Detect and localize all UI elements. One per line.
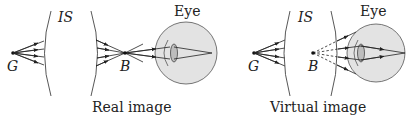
eye-icon — [155, 22, 217, 84]
image-point-b — [123, 51, 127, 55]
image-point-b — [311, 51, 315, 55]
label-b: B — [307, 58, 318, 74]
eye-icon — [347, 24, 405, 82]
label-is: IS — [57, 9, 73, 25]
caption-virtual-image: Virtual image — [269, 99, 366, 115]
label-is: IS — [297, 9, 313, 25]
label-eye: Eye — [174, 3, 200, 19]
label-g: G — [7, 58, 18, 74]
caption-real-image: Real image — [92, 99, 171, 115]
label-b: B — [119, 58, 130, 74]
panel-real-image: G IS B Eye Real image — [7, 3, 217, 115]
panel-virtual-image: G IS B Eye Virtual image — [248, 3, 405, 115]
label-g: G — [248, 58, 259, 74]
optics-diagram: G IS B Eye Real image — [0, 0, 412, 123]
label-eye: Eye — [360, 3, 386, 19]
